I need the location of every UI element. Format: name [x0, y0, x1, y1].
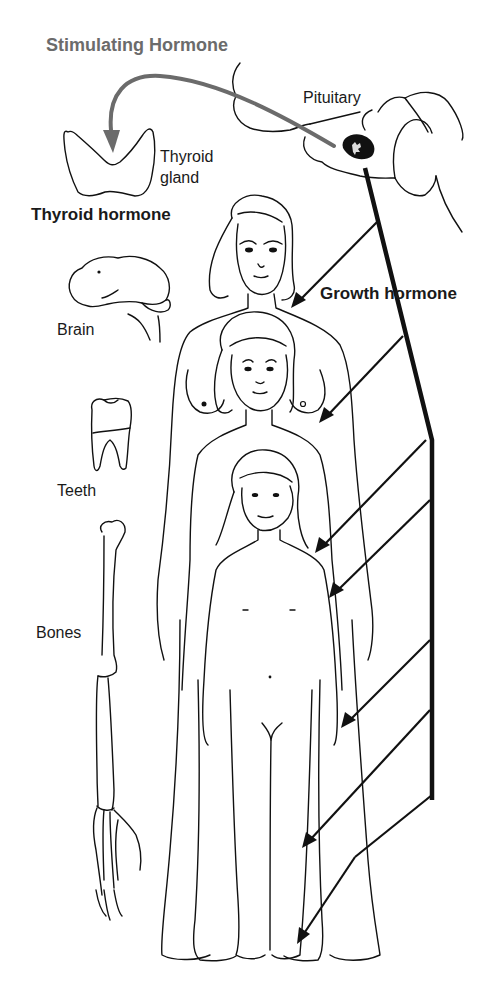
arm-bones-illustration	[94, 520, 141, 920]
brain-label: Brain	[57, 322, 94, 338]
growth-hormone-label: Growth hormone	[320, 285, 457, 302]
growth-hormone-diagram: Stimulating Hormone Pituitary Thyroid gl…	[0, 0, 501, 995]
thyroid-gland-label-line1: Thyroid	[160, 146, 213, 167]
bones-label: Bones	[36, 625, 81, 641]
thyroid-hormone-label: Thyroid hormone	[31, 206, 171, 223]
pituitary-label: Pituitary	[303, 90, 361, 106]
teeth-label: Teeth	[57, 483, 96, 499]
thyroid-gland-label: Thyroid gland	[160, 146, 213, 188]
thyroid-gland-label-line2: gland	[160, 167, 213, 188]
child-figure	[203, 450, 338, 959]
adult-woman-figure	[157, 195, 380, 960]
tooth-illustration	[92, 399, 132, 471]
stimulating-hormone-label: Stimulating Hormone	[46, 36, 228, 54]
